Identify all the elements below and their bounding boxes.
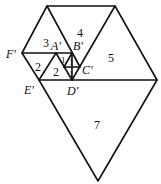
region-2b: 2: [53, 65, 59, 79]
label-E: E': [23, 83, 34, 97]
region-4: 4: [77, 26, 83, 40]
region-1b: 1: [69, 57, 74, 67]
label-A: A': [50, 39, 61, 53]
label-C: C': [82, 63, 93, 77]
fibonacci-triangle-diagram: F' A' B' C' D' E' 3 4 5 7 2 2 1 1 1: [0, 0, 161, 184]
label-D: D': [66, 84, 79, 98]
region-5: 5: [108, 51, 114, 65]
region-1c: 1: [69, 69, 74, 79]
region-3: 3: [43, 36, 49, 50]
region-2a: 2: [35, 60, 41, 74]
outer-left-upper-edge: [22, 6, 157, 181]
label-F: F': [5, 47, 16, 61]
region-7: 7: [94, 118, 100, 132]
label-B: B': [73, 39, 83, 53]
region-1a: 1: [61, 55, 66, 65]
